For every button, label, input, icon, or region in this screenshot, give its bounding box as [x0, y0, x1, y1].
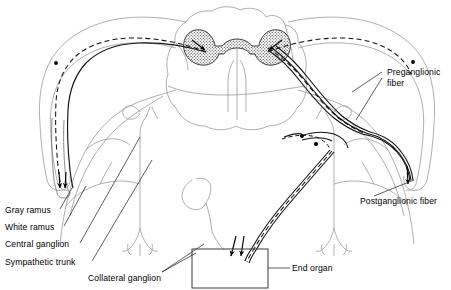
collateral-ganglion-left [182, 178, 212, 232]
sympathetic-trunk-left [60, 90, 176, 256]
postganglionic-fiber-to-end-organ-dashed [247, 151, 332, 262]
collateral-ganglion-right [212, 232, 224, 250]
label-central-ganglion: Central ganglion [5, 239, 69, 250]
label-preganglionic-fiber-line1: Preganglionic [387, 67, 440, 77]
central-canal [228, 48, 246, 120]
label-white-ramus: White ramus [5, 222, 54, 233]
label-preganglionic-fiber: Preganglionic fiber [387, 67, 440, 88]
label-gray-ramus: Gray ramus [5, 205, 51, 216]
label-preganglionic-fiber-line2: fiber [387, 78, 404, 88]
diagram-canvas: Gray ramus White ramus Central ganglion … [0, 0, 451, 290]
label-sympathetic-trunk: Sympathetic trunk [5, 257, 75, 268]
label-end-organ: End organ [292, 263, 333, 274]
label-postganglionic-fiber: Postganglionic fiber [360, 196, 437, 207]
label-collateral-ganglion: Collateral ganglion [88, 273, 161, 284]
nerve-ending-arrows-left [59, 172, 66, 188]
chain-ganglion-left [66, 139, 140, 206]
synapse-dot-right-upper [411, 60, 415, 64]
spinal-cord-outline [166, 7, 306, 130]
end-organ-box [192, 249, 268, 288]
ganglion-synapse-right-dashed [282, 135, 330, 150]
end-organ-arrows [231, 236, 244, 256]
synapse-dot-left [54, 61, 58, 65]
postganglionic-fiber-to-end-organ [245, 150, 334, 263]
